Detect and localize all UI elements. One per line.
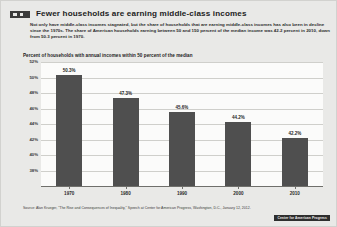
- chart-subtitle: Percent of households with annual income…: [23, 53, 193, 58]
- bar[interactable]: [56, 75, 82, 186]
- y-axis-tick-label: 40%: [23, 153, 38, 157]
- y-axis-tick-label: 48%: [23, 91, 38, 95]
- x-axis-tick: [126, 186, 127, 189]
- bar-slot: 45.6%: [154, 62, 210, 186]
- y-axis-tick-label: 38%: [23, 169, 38, 173]
- bar[interactable]: [113, 98, 139, 186]
- y-axis-tick-label: 50%: [23, 76, 38, 80]
- bar-slot: 50.3%: [41, 62, 97, 186]
- y-axis-tick-label: 44%: [23, 122, 38, 126]
- bar-value-label: 47.3%: [119, 91, 132, 96]
- x-axis-tick-label: 1980: [97, 191, 153, 196]
- figure-header: Fewer households are earning middle-clas…: [1, 1, 337, 18]
- y-axis-tick-label: 46%: [23, 107, 38, 111]
- x-axis-tick: [295, 186, 296, 189]
- y-axis-tick-label: 42%: [23, 138, 38, 142]
- bar-value-label: 44.2%: [232, 115, 245, 120]
- bar[interactable]: [282, 138, 308, 186]
- x-axis-tick: [182, 186, 183, 189]
- x-axis-tick-label: 1970: [41, 191, 97, 196]
- bar-value-label: 50.3%: [63, 68, 76, 73]
- bar[interactable]: [225, 122, 251, 186]
- figure-number-badge-icon: [10, 11, 30, 18]
- bar-slot: 47.3%: [97, 62, 153, 186]
- bar-slot: 44.2%: [210, 62, 266, 186]
- x-axis-tick: [238, 186, 239, 189]
- x-axis-tick-label: 1990: [154, 191, 210, 196]
- x-axis-tick-label: 2000: [210, 191, 266, 196]
- figure-title: Fewer households are earning middle-clas…: [36, 9, 247, 18]
- bar[interactable]: [169, 112, 195, 186]
- bar-slot: 42.2%: [267, 62, 323, 186]
- credit-badge: Center for American Progress: [274, 215, 330, 221]
- source-note: Source: Alan Krueger, "The Rise and Cons…: [23, 206, 313, 211]
- x-axis-tick: [69, 186, 70, 189]
- bar-value-label: 42.2%: [288, 131, 301, 136]
- figure-container: Fewer households are earning middle-clas…: [0, 0, 337, 227]
- bar-series: 50.3%47.3%45.6%44.2%42.2%: [41, 62, 323, 186]
- figure-description: Not only have middle-class incomes stagn…: [30, 22, 330, 41]
- chart-plot-area: 52%50%48%46%44%42%40%38% 50.3%47.3%45.6%…: [23, 62, 323, 199]
- y-axis-tick-label: 52%: [23, 60, 38, 64]
- bar-value-label: 45.6%: [176, 105, 189, 110]
- x-axis-tick-label: 2010: [267, 191, 323, 196]
